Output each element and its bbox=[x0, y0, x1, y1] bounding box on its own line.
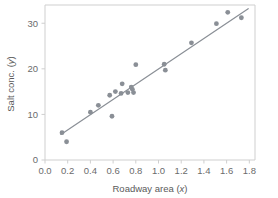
data-point bbox=[214, 21, 219, 26]
data-point bbox=[110, 114, 115, 119]
data-point bbox=[189, 40, 194, 45]
x-axis-title: Roadway area (x) bbox=[113, 183, 188, 194]
plot-border bbox=[45, 5, 255, 160]
regression-line bbox=[61, 9, 248, 135]
x-tick-label: 0.2 bbox=[61, 165, 74, 176]
x-tick-label: 1.2 bbox=[175, 165, 188, 176]
x-tick-label: 0.4 bbox=[84, 165, 97, 176]
data-point bbox=[96, 103, 101, 108]
data-point bbox=[225, 10, 230, 15]
x-tick-label: 1.0 bbox=[152, 165, 165, 176]
y-tick-label: 20 bbox=[27, 63, 38, 74]
x-tick-label: 0.0 bbox=[38, 165, 51, 176]
data-point bbox=[163, 68, 168, 73]
x-axis-tick-labels: 0.00.20.40.60.81.01.21.41.61.8 bbox=[38, 165, 256, 176]
y-tick-label: 30 bbox=[27, 18, 38, 29]
chart-canvas: 0.00.20.40.60.81.01.21.41.61.8 0102030 R… bbox=[0, 0, 278, 198]
x-tick-label: 0.8 bbox=[129, 165, 142, 176]
x-tick-label: 1.6 bbox=[220, 165, 233, 176]
data-point bbox=[120, 81, 125, 86]
y-tick-label: 0 bbox=[33, 154, 38, 165]
y-axis-title: Salt conc. (y) bbox=[5, 56, 16, 111]
x-tick-label: 1.4 bbox=[197, 165, 210, 176]
data-point bbox=[107, 93, 112, 98]
scatter-plot-figure: 0.00.20.40.60.81.01.21.41.61.8 0102030 R… bbox=[0, 0, 278, 198]
data-point bbox=[88, 110, 93, 115]
y-axis-tick-labels: 0102030 bbox=[27, 18, 38, 166]
data-point bbox=[125, 90, 130, 95]
plot-frame bbox=[45, 5, 255, 160]
x-tick-label: 0.6 bbox=[106, 165, 119, 176]
data-point bbox=[119, 91, 124, 96]
data-point bbox=[64, 139, 69, 144]
data-point bbox=[239, 15, 244, 20]
data-point bbox=[60, 130, 65, 135]
y-axis-ticks bbox=[42, 23, 46, 160]
data-point bbox=[133, 62, 138, 67]
data-point bbox=[162, 62, 167, 67]
y-tick-label: 10 bbox=[27, 109, 38, 120]
fit-line bbox=[61, 9, 248, 135]
x-axis-ticks bbox=[45, 160, 249, 164]
x-tick-label: 1.8 bbox=[243, 165, 256, 176]
data-point bbox=[131, 90, 136, 95]
data-point bbox=[113, 89, 118, 94]
